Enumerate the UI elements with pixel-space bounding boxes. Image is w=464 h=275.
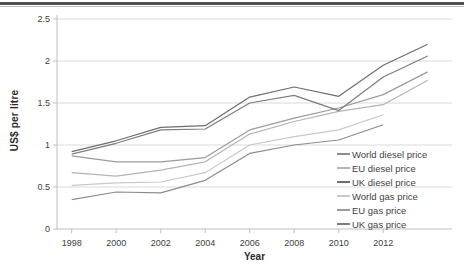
y-axis-title: US$ per litre [9, 74, 20, 168]
y-tick-label: 1 [45, 140, 50, 150]
x-tick-label: 2012 [373, 238, 393, 248]
x-tick-label: 2000 [106, 238, 126, 248]
legend-dash-icon [337, 167, 350, 169]
legend-label: UK gas price [352, 219, 406, 230]
x-axis-title: Year [57, 251, 452, 262]
y-tick-label: 0 [45, 224, 50, 234]
legend-dash-icon [337, 181, 350, 183]
legend-item-world-diesel-price: World diesel price [337, 147, 427, 161]
y-tick-label: 1.5 [37, 98, 50, 108]
x-tick-label: 2010 [329, 238, 349, 248]
page: 00.511.522.51998200020022004200620082010… [0, 0, 464, 275]
y-tick-label: 2 [45, 56, 50, 66]
x-tick-label: 2002 [151, 238, 171, 248]
y-tick-label: 0.5 [37, 182, 50, 192]
series-line-uk-diesel-price [72, 44, 428, 152]
legend-label: World gas price [352, 191, 418, 202]
legend-label: EU gas price [352, 205, 406, 216]
x-tick-label: 1998 [62, 238, 82, 248]
legend: World diesel priceEU diesel priceUK dies… [337, 147, 427, 231]
legend-dash-icon [337, 195, 350, 197]
legend-item-eu-diesel-price: EU diesel price [337, 161, 427, 175]
legend-dash-icon [337, 209, 350, 211]
x-tick-label: 2006 [240, 238, 260, 248]
fuel-price-line-chart: 00.511.522.51998200020022004200620082010… [0, 0, 464, 275]
legend-label: World diesel price [352, 149, 427, 160]
legend-item-uk-gas-price: UK gas price [337, 217, 427, 231]
legend-label: EU diesel price [352, 163, 416, 174]
legend-item-eu-gas-price: EU gas price [337, 203, 427, 217]
legend-item-world-gas-price: World gas price [337, 189, 427, 203]
x-tick-label: 2008 [284, 238, 304, 248]
legend-label: UK diesel price [352, 177, 416, 188]
legend-dash-icon [337, 153, 350, 155]
y-tick-label: 2.5 [37, 14, 50, 24]
legend-item-uk-diesel-price: UK diesel price [337, 175, 427, 189]
x-tick-label: 2004 [195, 238, 215, 248]
chart-canvas: 00.511.522.51998200020022004200620082010… [0, 0, 464, 275]
legend-dash-icon [337, 223, 350, 225]
